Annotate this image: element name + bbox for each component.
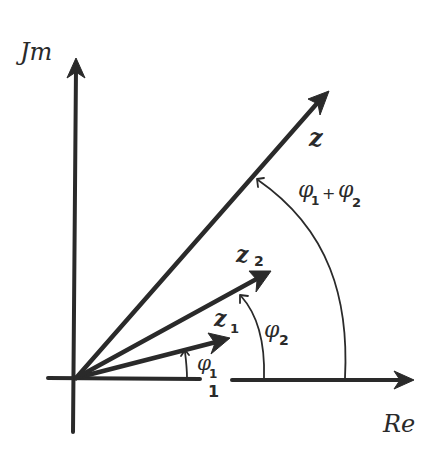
angle-label-phi-sum: φ 1 + φ 2 <box>298 177 361 210</box>
angle-label-phi-sum-sub1: 1 <box>311 194 319 208</box>
angle-label-phi2: φ 2 <box>264 317 289 348</box>
vector-z2-label-main: z <box>235 241 249 267</box>
vector-z2-label-sub: 2 <box>254 253 264 269</box>
vector-z1-label-main: z <box>213 305 227 331</box>
real-axis-label: Re <box>382 410 415 438</box>
vector-z1-label: z 1 <box>213 305 239 336</box>
angle-label-phi2-sub: 2 <box>279 332 289 348</box>
angle-arc-phi2 <box>240 295 264 378</box>
angle-label-phi-sum-sub2: 2 <box>352 195 361 210</box>
complex-multiplication-diagram: Jm Re 1 z 1 z 2 z φ 1 <box>0 0 439 456</box>
angle-label-phi2-main: φ <box>264 317 280 342</box>
angle-label-phi1-sub: 1 <box>209 367 217 381</box>
vector-z-label: z <box>308 123 324 152</box>
imaginary-axis-label: Jm <box>15 38 52 66</box>
unit-tick-label: 1 <box>208 382 219 401</box>
vector-z2-label: z 2 <box>235 241 264 269</box>
angle-label-phi-sum-plus: + <box>322 184 335 203</box>
vector-z <box>76 91 329 378</box>
angle-arc-phi-sum <box>257 178 346 378</box>
vector-z1-label-sub: 1 <box>230 321 239 336</box>
angle-label-phi1: φ 1 <box>197 351 217 381</box>
real-axis <box>48 371 414 389</box>
angle-arc-phi1 <box>181 350 189 378</box>
vector-z2 <box>76 271 271 378</box>
